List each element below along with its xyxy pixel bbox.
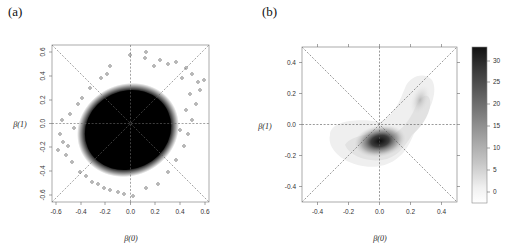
svg-text:0.6: 0.6 (200, 208, 209, 215)
svg-text:-0.4: -0.4 (312, 208, 324, 215)
svg-text:-0.2: -0.2 (343, 208, 355, 215)
svg-text:-0.4: -0.4 (285, 183, 297, 190)
svg-text:0.4: 0.4 (287, 59, 296, 66)
colorbar: 0 5 10 15 20 25 30 (472, 47, 501, 203)
svg-text:30: 30 (493, 57, 501, 64)
x-axis-labels-a: -0.6 -0.4 -0.2 0.0 0.2 0.4 0.6 (50, 208, 209, 215)
svg-text:0.2: 0.2 (150, 208, 159, 215)
svg-text:-0.6: -0.6 (50, 208, 62, 215)
svg-text:0.2: 0.2 (406, 208, 415, 215)
svg-text:0.4: 0.4 (437, 208, 446, 215)
svg-text:0.6: 0.6 (39, 47, 46, 56)
svg-text:0.2: 0.2 (39, 95, 46, 104)
svg-text:5: 5 (493, 166, 497, 173)
svg-text:10: 10 (493, 144, 501, 151)
figure-canvas: -0.6 -0.4 -0.2 0.0 0.2 0.4 0.6 -0.6 -0.4… (0, 0, 505, 251)
svg-text:25: 25 (493, 78, 501, 85)
panel-a-scatter: -0.6 -0.4 -0.2 0.0 0.2 0.4 0.6 -0.6 -0.4… (12, 45, 210, 243)
x-axis-title-b: β(0) (372, 234, 387, 243)
svg-text:0.4: 0.4 (39, 71, 46, 80)
y-axis-labels-b: -0.4 -0.2 0.0 0.2 0.4 (285, 59, 297, 190)
y-axis-title-a: β(1) (12, 120, 27, 129)
x-axis-title-a: β(0) (123, 234, 138, 243)
svg-text:0.4: 0.4 (175, 208, 184, 215)
x-axis-ticks-a (56, 202, 205, 205)
x-axis-labels-b: -0.4 -0.2 0.0 0.2 0.4 (312, 208, 446, 215)
svg-text:-0.6: -0.6 (39, 189, 46, 201)
panel-b-density: -0.4 -0.2 0.0 0.2 0.4 -0.4 -0.2 0.0 0.2 … (257, 44, 500, 243)
svg-text:20: 20 (493, 100, 501, 107)
svg-text:0.0: 0.0 (126, 208, 135, 215)
svg-text:-0.2: -0.2 (39, 141, 46, 153)
svg-text:0: 0 (493, 188, 497, 195)
colorbar-ticks (487, 61, 490, 192)
svg-text:0.0: 0.0 (375, 208, 384, 215)
svg-text:15: 15 (493, 122, 501, 129)
colorbar-gradient (472, 47, 487, 203)
svg-text:0.2: 0.2 (287, 90, 296, 97)
y-axis-ticks-a (49, 52, 52, 195)
svg-text:0.0: 0.0 (39, 119, 46, 128)
svg-text:-0.2: -0.2 (99, 208, 111, 215)
y-axis-labels-a: -0.6 -0.4 -0.2 0.0 0.2 0.4 0.6 (39, 47, 46, 200)
svg-text:0.0: 0.0 (287, 121, 296, 128)
svg-text:-0.4: -0.4 (39, 165, 46, 177)
svg-text:-0.2: -0.2 (285, 152, 297, 159)
svg-text:-0.4: -0.4 (75, 208, 87, 215)
y-axis-title-b: β(1) (257, 122, 272, 131)
colorbar-labels: 0 5 10 15 20 25 30 (493, 57, 501, 195)
